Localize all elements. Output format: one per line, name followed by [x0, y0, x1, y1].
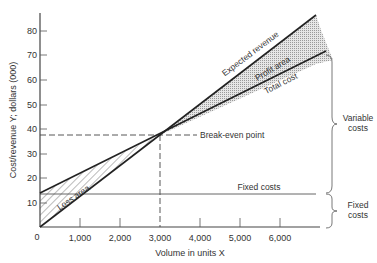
x-tick-label: 1,000	[69, 233, 92, 243]
y-tick-label: 70	[27, 50, 37, 60]
fixed-costs-label-line1: Fixed	[348, 200, 369, 210]
x-tick-label: 4,000	[189, 233, 212, 243]
y-tick-label: 50	[27, 100, 37, 110]
variable-costs-label-line1: Variable	[343, 113, 374, 123]
y-axis-title: Cost/revenue Y; dollars (000)	[8, 62, 18, 178]
x-tick-label: 2,000	[109, 233, 132, 243]
y-tick-label: 10	[27, 198, 37, 208]
y-tick-label: 40	[27, 124, 37, 134]
variable-costs-label-line2: costs	[348, 123, 368, 133]
x-tick-label: 6,000	[269, 233, 292, 243]
y-tick-label: 60	[27, 75, 37, 85]
variable-costs-bracket	[326, 55, 337, 193]
fixed-costs-label-line2: costs	[348, 210, 368, 220]
y-tick-label: 20	[27, 173, 37, 183]
y-tick-label: 30	[27, 149, 37, 159]
x-axis-title: Volume in units X	[155, 248, 225, 258]
y-tick-label: 80	[27, 26, 37, 36]
x-tick-label: 3,000	[149, 233, 172, 243]
break-even-label: Break-even point	[200, 130, 265, 140]
x-ticks	[80, 218, 280, 227]
profit-area-fill	[160, 15, 333, 135]
x-tick-label: 5,000	[229, 233, 252, 243]
origin-label: 0	[34, 232, 39, 242]
total-cost-line	[40, 51, 326, 193]
break-even-chart: 10 20 30 40 50 60 70 80 0 1,000 2,000 3,…	[0, 0, 377, 263]
fixed-costs-bracket	[326, 194, 337, 228]
fixed-costs-line-label: Fixed costs	[238, 182, 281, 192]
y-ticks	[40, 31, 47, 203]
